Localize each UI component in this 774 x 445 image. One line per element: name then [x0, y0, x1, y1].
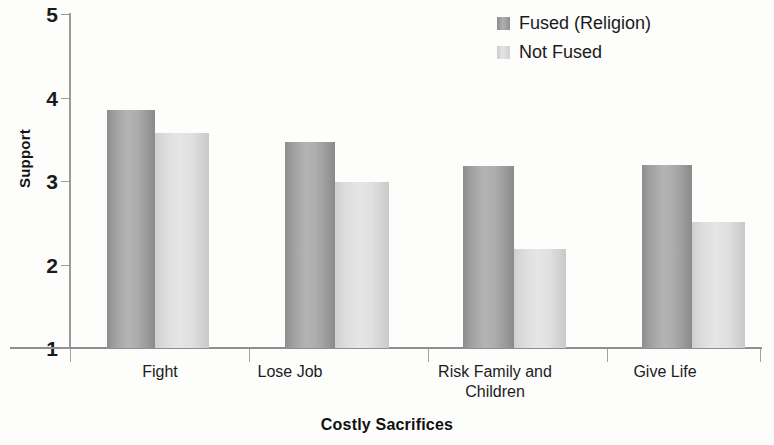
x-tick-mark-start — [70, 349, 71, 362]
legend-swatch-fused-religion-icon — [497, 17, 510, 30]
bar-chart: 5 4 3 2 1 Support Fight Lose Job — [0, 0, 774, 445]
x-tick-mark-1 — [249, 349, 250, 362]
x-category-label-give-life: Give Life — [595, 362, 735, 382]
legend-label-fused-religion: Fused (Religion) — [519, 13, 651, 34]
legend-label-not-fused: Not Fused — [519, 42, 602, 63]
x-category-label-give-life-line1: Give Life — [595, 362, 735, 382]
x-category-label-risk-family-line1: Risk Family and — [405, 362, 585, 382]
y-tick-mark-2 — [61, 265, 70, 266]
bar-lose-job-fused — [285, 142, 335, 348]
y-axis-tick-labels: 5 4 3 2 1 — [0, 0, 58, 445]
chart-legend: Fused (Religion) Not Fused — [497, 9, 747, 67]
y-tick-mark-4 — [61, 98, 70, 99]
bar-fight-fused — [107, 110, 155, 348]
bar-lose-job-not-fused — [335, 182, 389, 348]
legend-item-not-fused: Not Fused — [497, 38, 747, 67]
y-tick-label-5: 5 — [6, 4, 58, 25]
y-tick-mark-5 — [61, 14, 70, 15]
bar-give-life-fused — [642, 165, 692, 348]
x-category-label-lose-job-line1: Lose Job — [215, 362, 365, 382]
x-axis-title: Costly Sacrifices — [0, 416, 774, 434]
legend-item-fused-religion: Fused (Religion) — [497, 9, 747, 38]
y-tick-mark-1 — [61, 348, 70, 349]
bar-risk-family-not-fused — [514, 249, 566, 348]
x-category-label-lose-job: Lose Job — [215, 362, 365, 382]
y-tick-label-2: 2 — [6, 255, 58, 276]
x-category-label-risk-family: Risk Family and Children — [405, 362, 585, 401]
legend-swatch-not-fused-icon — [497, 46, 510, 59]
x-tick-mark-3 — [607, 349, 608, 362]
bar-risk-family-fused — [463, 166, 514, 348]
bar-fight-not-fused — [155, 133, 209, 348]
x-category-label-risk-family-line2: Children — [405, 382, 585, 402]
x-tick-mark-2 — [428, 349, 429, 362]
x-tick-mark-end — [760, 349, 761, 362]
y-axis-title: Support — [16, 99, 33, 219]
x-category-label-fight: Fight — [100, 362, 220, 382]
y-tick-mark-3 — [61, 181, 70, 182]
bar-give-life-not-fused — [692, 222, 745, 348]
x-category-label-fight-line1: Fight — [100, 362, 220, 382]
